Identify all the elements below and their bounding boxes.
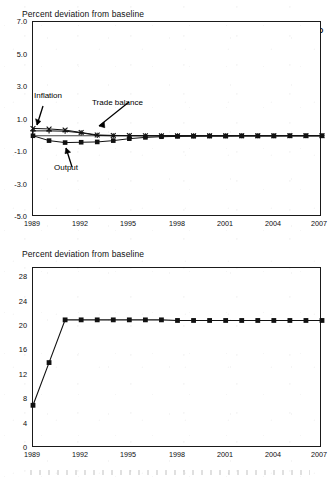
- series-output-markers: [31, 133, 325, 144]
- y-tick-label: 8: [2, 394, 27, 403]
- y-tick-label: 4: [2, 418, 27, 427]
- x-tick-mark: [0, 49, 1, 52]
- y-tick-label: 24: [2, 296, 27, 305]
- annotation-trade-balance: Trade balance: [92, 98, 143, 107]
- y-tick-label: 7.0: [2, 17, 27, 26]
- annotation-output: Output: [54, 163, 78, 172]
- x-tick-label: 1998: [169, 450, 185, 459]
- x-tick-label: 1992: [72, 219, 88, 228]
- chart-panel-nominal-exchange-rate: Percent deviation from baseline NOMINAL …: [0, 238, 334, 478]
- y-tick-label: 5.0: [2, 49, 27, 58]
- x-tick-label: 2001: [217, 219, 233, 228]
- series-layer-top: [33, 22, 322, 217]
- plot-area: [32, 267, 321, 447]
- y-tick-label: 20: [2, 321, 27, 330]
- y-tick-label: 28: [2, 272, 27, 281]
- y-axis-caption: Percent deviation from baseline: [22, 9, 144, 19]
- x-tick-label: 2007: [311, 219, 327, 228]
- y-tick-label: 16: [2, 345, 27, 354]
- chart-panel-foreign-monetary-policy: Percent deviation from baseline FOREIGN …: [0, 0, 334, 238]
- x-tick-mark: [0, 288, 1, 291]
- y-tick-label: 1.0: [2, 114, 27, 123]
- y-axis-caption: Percent deviation from baseline: [22, 249, 144, 259]
- x-tick-label: 1992: [72, 450, 88, 459]
- x-tick-label: 2004: [265, 219, 281, 228]
- x-tick-label: 2004: [265, 450, 281, 459]
- x-tick-label: 1995: [120, 450, 136, 459]
- y-tick-label: 12: [2, 369, 27, 378]
- x-tick-label: 1989: [24, 450, 40, 459]
- x-tick-label: 1995: [120, 219, 136, 228]
- x-tick-label: 1989: [24, 219, 40, 228]
- x-tick-label: 2007: [311, 450, 327, 459]
- annotation-arrows: [36, 102, 129, 167]
- plot-area: [32, 21, 321, 216]
- annotation-inflation: Inflation: [34, 91, 62, 100]
- y-tick-label: -3.0: [2, 179, 27, 188]
- x-tick-label: 2001: [217, 450, 233, 459]
- series-layer-bottom: [33, 268, 322, 448]
- series-nominal-exchange-rate-line: [33, 320, 322, 405]
- y-tick-label: -1.0: [2, 147, 27, 156]
- x-tick-label: 1998: [169, 219, 185, 228]
- series-nominal-exchange-rate-markers: [31, 317, 325, 407]
- y-tick-label: 3.0: [2, 82, 27, 91]
